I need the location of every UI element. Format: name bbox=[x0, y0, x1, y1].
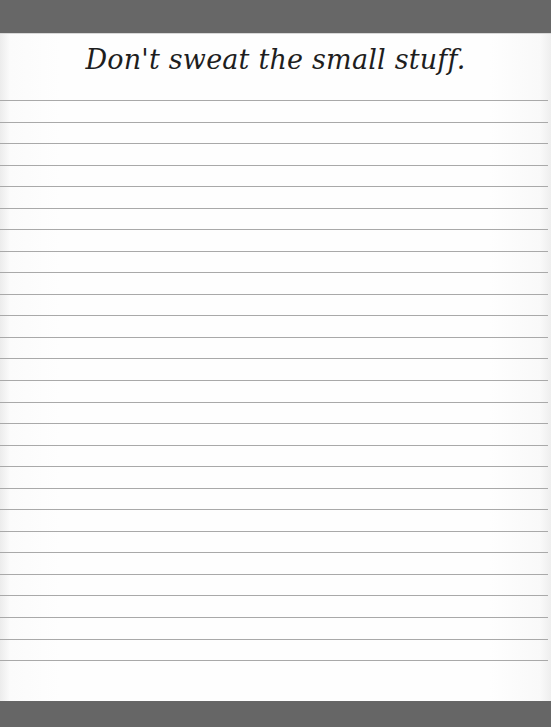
ruled-line bbox=[0, 358, 548, 359]
ruled-line bbox=[0, 423, 548, 424]
bottom-border-band bbox=[0, 701, 551, 727]
ruled-line bbox=[0, 574, 548, 575]
ruled-line bbox=[0, 509, 548, 510]
ruled-line bbox=[0, 531, 548, 532]
ruled-line bbox=[0, 229, 548, 230]
ruled-line bbox=[0, 122, 548, 123]
ruled-line bbox=[0, 595, 548, 596]
ruled-line bbox=[0, 639, 548, 640]
ruled-line bbox=[0, 186, 548, 187]
ruled-line bbox=[0, 294, 548, 295]
ruled-line bbox=[0, 466, 548, 467]
ruled-line bbox=[0, 552, 548, 553]
ruled-line bbox=[0, 315, 548, 316]
header-quote: Don't sweat the small stuff. bbox=[0, 44, 551, 75]
ruled-line bbox=[0, 445, 548, 446]
ruled-line bbox=[0, 251, 548, 252]
ruled-line bbox=[0, 100, 548, 101]
ruled-line bbox=[0, 488, 548, 489]
notepad-paper: Don't sweat the small stuff. bbox=[0, 34, 551, 701]
ruled-line bbox=[0, 617, 548, 618]
ruled-line bbox=[0, 165, 548, 166]
ruled-line bbox=[0, 208, 548, 209]
ruled-line bbox=[0, 272, 548, 273]
ruled-line bbox=[0, 380, 548, 381]
ruled-line bbox=[0, 402, 548, 403]
top-border-band bbox=[0, 0, 551, 35]
ruled-line bbox=[0, 337, 548, 338]
ruled-line bbox=[0, 660, 548, 661]
ruled-line bbox=[0, 143, 548, 144]
